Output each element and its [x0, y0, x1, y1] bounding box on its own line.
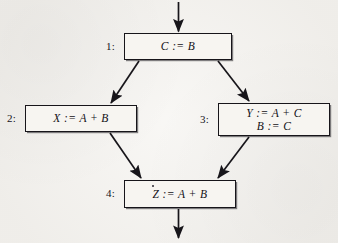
- edge-2-to-4: [110, 133, 141, 178]
- figure-canvas: 1: C := B 2: X := A + B 3: Y := A + C B …: [0, 0, 338, 243]
- node-block-4[interactable]: Z := A + B: [124, 180, 236, 208]
- node-block-2[interactable]: X := A + B: [25, 105, 137, 132]
- node-3-statement-1: Y := A + C: [246, 107, 302, 120]
- edge-3-to-4: [218, 137, 249, 178]
- node-block-3[interactable]: Y := A + C B := C: [218, 103, 330, 136]
- node-1-statement-1: C := B: [161, 40, 195, 53]
- node-3-statement-2: B := C: [257, 120, 291, 133]
- edge-1-to-2: [111, 61, 139, 103]
- scan-speck: [152, 185, 154, 187]
- node-block-1[interactable]: C := B: [124, 33, 232, 60]
- node-label-3: 3:: [200, 113, 209, 125]
- node-label-4: 4:: [106, 187, 115, 199]
- edge-1-to-3: [218, 61, 249, 101]
- node-label-2: 2:: [7, 112, 16, 124]
- node-2-statement-1: X := A + B: [53, 112, 109, 125]
- node-label-1: 1:: [106, 40, 115, 52]
- node-4-statement-1: Z := A + B: [153, 188, 208, 201]
